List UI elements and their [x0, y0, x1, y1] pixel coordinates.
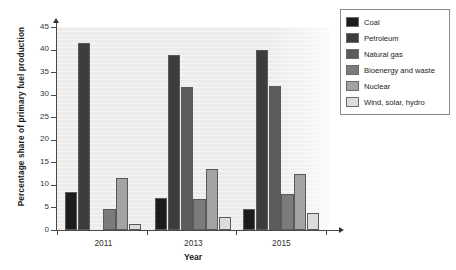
x-tick-label-2015: 2015: [251, 238, 311, 248]
x-axis-title: Year: [57, 252, 329, 262]
y-tick-label: 40: [40, 44, 49, 53]
y-axis-title: Percentage share of primary fuel product…: [17, 2, 26, 232]
y-tick-label: 0: [45, 225, 49, 234]
legend-swatch-icon: [346, 65, 359, 75]
bar-nuclear-2013: [206, 169, 218, 230]
bar-bioenergy-and-waste-2015: [281, 194, 293, 230]
legend-swatch-icon: [346, 81, 359, 91]
legend-label: Nuclear: [364, 82, 390, 91]
bar-nuclear-2015: [294, 174, 306, 230]
y-tick-label: 20: [40, 134, 49, 143]
legend-item-coal[interactable]: Coal: [346, 14, 445, 30]
x-tick-mark: [147, 230, 148, 235]
x-axis-arrow-icon: [339, 227, 344, 233]
bar-coal-2015: [243, 209, 255, 230]
legend-swatch-icon: [346, 33, 359, 43]
bar-nuclear-2011: [116, 178, 128, 230]
legend-label: Coal: [364, 18, 380, 27]
y-axis-arrow-icon: [53, 18, 59, 23]
bar-bioenergy-and-waste-2011: [103, 209, 115, 230]
y-tick-label: 10: [40, 179, 49, 188]
legend-label: Bioenergy and waste: [364, 66, 435, 75]
x-tick-mark: [326, 230, 327, 235]
legend-label: Wind, solar, hydro: [364, 98, 425, 107]
y-tick-label: 30: [40, 89, 49, 98]
legend-item-petroleum[interactable]: Petroleum: [346, 30, 445, 46]
legend-item-natural-gas[interactable]: Natural gas: [346, 46, 445, 62]
bar-coal-2011: [65, 192, 77, 230]
chart-figure: Percentage share of primary fuel product…: [0, 0, 456, 270]
legend-label: Petroleum: [364, 34, 399, 43]
legend-item-bioenergy-and-waste[interactable]: Bioenergy and waste: [346, 62, 445, 78]
bar-wind-solar-hydro-2015: [307, 213, 319, 230]
bar-natural-gas-2015: [269, 86, 281, 230]
legend-item-wind-solar-hydro[interactable]: Wind, solar, hydro: [346, 94, 445, 110]
y-tick-label: 45: [40, 22, 49, 31]
x-tick-mark: [236, 230, 237, 235]
y-tick-label: 5: [45, 202, 49, 211]
bar-petroleum-2013: [168, 55, 180, 230]
y-tick-label: 35: [40, 67, 49, 76]
bar-petroleum-2011: [78, 43, 90, 230]
legend-item-nuclear[interactable]: Nuclear: [346, 78, 445, 94]
legend-swatch-icon: [346, 49, 359, 59]
x-tick-label-2013: 2013: [163, 238, 223, 248]
legend-swatch-icon: [346, 17, 359, 27]
bar-bioenergy-and-waste-2013: [193, 199, 205, 230]
bar-wind-solar-hydro-2013: [219, 217, 231, 230]
bar-wind-solar-hydro-2011: [129, 224, 141, 230]
x-tick-label-2011: 2011: [73, 238, 133, 248]
y-tick-label: 25: [40, 112, 49, 121]
legend-label: Natural gas: [364, 50, 403, 59]
x-tick-mark: [57, 230, 58, 235]
bar-petroleum-2015: [256, 50, 268, 230]
y-tick-label: 15: [40, 157, 49, 166]
legend-swatch-icon: [346, 97, 359, 107]
x-axis-line: [57, 230, 340, 231]
chart-legend: CoalPetroleumNatural gasBioenergy and wa…: [340, 9, 450, 115]
bar-natural-gas-2013: [181, 87, 193, 230]
bar-coal-2013: [155, 198, 167, 230]
bar-series-container: [57, 27, 329, 230]
